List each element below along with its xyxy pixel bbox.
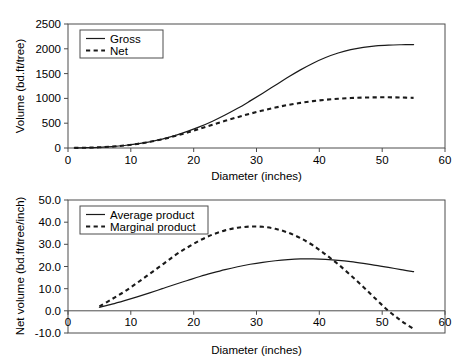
legend-bottom: Average product Marginal product	[80, 206, 208, 234]
series-line-average-product	[99, 259, 413, 307]
figure-container: 0 500 1000 1500 2000 2500 0 10	[0, 0, 470, 361]
y-tick-label: 30.0	[39, 238, 61, 250]
y-tick-label: 500	[42, 117, 61, 129]
x-tick-label: 0	[65, 316, 71, 328]
x-tick-label: 60	[439, 316, 452, 328]
x-axis-title: Diameter (inches)	[211, 344, 302, 356]
x-tick-label: 10	[124, 154, 137, 166]
x-tick-label: 30	[250, 154, 263, 166]
y-tick-label: 2500	[35, 18, 61, 30]
y-axis-title: Volume (bd.ft/tree)	[14, 39, 26, 134]
legend-label: Marginal product	[110, 221, 196, 233]
x-tick-label: 50	[376, 316, 389, 328]
x-tick-label: 40	[313, 154, 326, 166]
volume-chart-svg: 0 500 1000 1500 2000 2500 0 10	[0, 0, 470, 185]
x-axis-ticks-top	[68, 148, 445, 152]
y-tick-label: 10.0	[39, 283, 61, 295]
y-tick-label: -10.0	[35, 327, 61, 339]
y-axis-tick-labels-bottom: -10.0 0.0 10.0 20.0 30.0 40.0 50.0	[35, 194, 61, 339]
legend-label: Gross	[110, 33, 141, 45]
y-axis-title: Net volume (bd.ft/tree/inch)	[14, 196, 26, 335]
y-tick-label: 0	[55, 142, 61, 154]
x-axis-ticks-bottom	[68, 311, 445, 315]
x-tick-label: 30	[250, 316, 263, 328]
series-line-gross	[74, 45, 413, 148]
x-axis-tick-labels-bottom: 0 10 20 30 40 50 60	[65, 316, 452, 328]
x-tick-label: 40	[313, 316, 326, 328]
chart-panel-volume: 0 500 1000 1500 2000 2500 0 10	[0, 0, 470, 185]
y-tick-label: 1500	[35, 68, 61, 80]
x-tick-label: 60	[439, 154, 452, 166]
y-tick-label: 2000	[35, 43, 61, 55]
x-tick-label: 50	[376, 154, 389, 166]
legend-top: Gross Net	[80, 30, 163, 58]
y-tick-label: 1000	[35, 92, 61, 104]
y-axis-ticks-top	[64, 24, 68, 148]
y-tick-label: 0.0	[45, 305, 61, 317]
chart-panel-net-volume: -10.0 0.0 10.0 20.0 30.0 40.0 50.0 0	[0, 181, 470, 361]
y-axis-ticks-bottom	[64, 200, 68, 333]
x-axis-tick-labels-top: 0 10 20 30 40 50 60	[65, 154, 452, 166]
legend-label: Net	[110, 45, 129, 57]
x-tick-label: 0	[65, 154, 71, 166]
x-tick-label: 20	[187, 154, 200, 166]
legend-label: Average product	[110, 209, 195, 221]
x-tick-label: 20	[187, 316, 200, 328]
y-tick-label: 40.0	[39, 216, 61, 228]
y-tick-label: 50.0	[39, 194, 61, 206]
x-tick-label: 10	[124, 316, 137, 328]
y-tick-label: 20.0	[39, 261, 61, 273]
y-axis-tick-labels-top: 0 500 1000 1500 2000 2500	[35, 18, 61, 154]
net-volume-chart-svg: -10.0 0.0 10.0 20.0 30.0 40.0 50.0 0	[0, 181, 470, 361]
